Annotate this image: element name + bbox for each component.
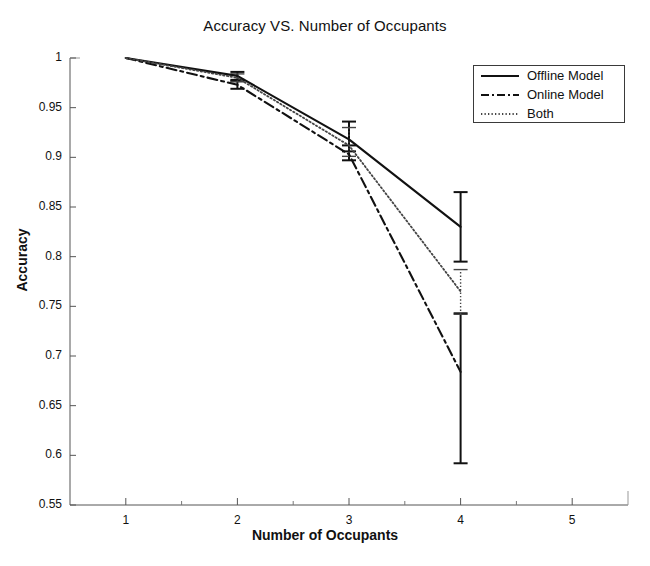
legend: Offline Model Online Model Both <box>473 65 625 123</box>
legend-swatch-solid-icon <box>480 70 520 82</box>
x-tick-label: 1 <box>106 513 146 527</box>
y-tick-label: 0.7 <box>18 348 62 362</box>
legend-label-online-model: Online Model <box>527 88 604 101</box>
legend-swatch-dashdot-icon <box>480 89 520 101</box>
y-tick-label: 1 <box>18 50 62 64</box>
legend-item-both: Both <box>474 104 624 123</box>
chart-figure: Accuracy VS. Number of Occupants 0.550.6… <box>0 0 650 566</box>
y-tick-label: 0.9 <box>18 149 62 163</box>
legend-label-offline-model: Offline Model <box>527 69 603 82</box>
x-tick-label: 5 <box>552 513 592 527</box>
legend-item-online-model: Online Model <box>474 85 624 104</box>
y-tick-label: 0.65 <box>18 398 62 412</box>
y-axis-label: Accuracy <box>14 200 30 320</box>
legend-swatch-dotted-icon <box>480 108 520 120</box>
x-tick-label: 4 <box>441 513 481 527</box>
y-tick-label: 0.6 <box>18 447 62 461</box>
legend-item-offline-model: Offline Model <box>474 66 624 85</box>
x-tick-label: 2 <box>217 513 257 527</box>
x-tick-label: 3 <box>329 513 369 527</box>
y-tick-label: 0.55 <box>18 497 62 511</box>
legend-label-both: Both <box>527 107 554 120</box>
x-axis-label: Number of Occupants <box>0 527 650 543</box>
y-tick-label: 0.95 <box>18 100 62 114</box>
